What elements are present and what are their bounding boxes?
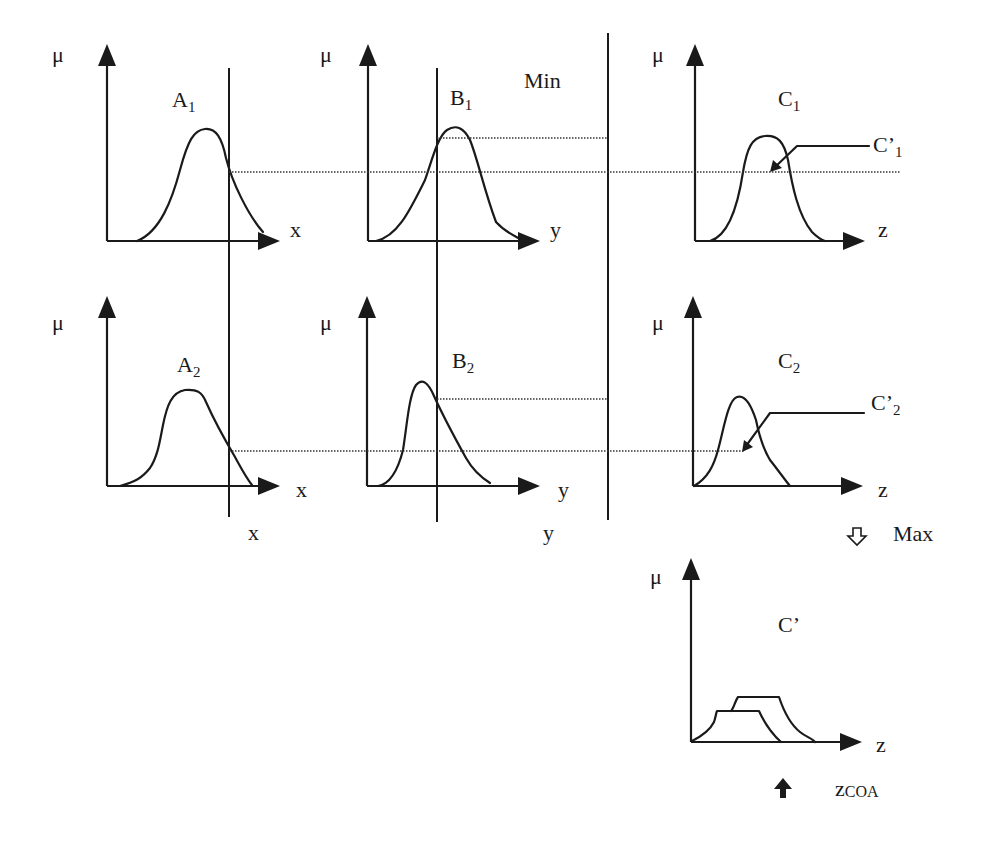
axis-label-x: x xyxy=(290,217,301,242)
panel-c2: μ z C2 C’2 xyxy=(652,296,901,502)
panel-c1: μ z C1 C’1 xyxy=(652,42,903,250)
up-arrow-icon xyxy=(774,778,792,798)
membership-curve-b2 xyxy=(378,382,490,486)
y-axis-arrow-icon xyxy=(98,44,116,66)
panel-aggregated-output: μ z C’ xyxy=(650,558,886,757)
y-axis-arrow-icon xyxy=(98,296,116,318)
mu-label: μ xyxy=(320,42,332,67)
y-axis-arrow-icon xyxy=(358,296,376,318)
clipped-label-c2: C’2 xyxy=(871,390,901,418)
y-axis-arrow-icon xyxy=(682,558,700,580)
min-operator-label: Min xyxy=(524,68,561,93)
y-axis-arrow-icon xyxy=(359,44,377,66)
mu-label: μ xyxy=(52,310,64,335)
z-coa-label: zCOA xyxy=(835,776,879,801)
mu-label: μ xyxy=(652,310,664,335)
axis-label-z: z xyxy=(876,732,886,757)
set-label-c1: C1 xyxy=(778,86,800,114)
clipped-curve-c2 xyxy=(692,711,781,742)
mu-label: μ xyxy=(52,42,64,67)
x-axis-arrow-icon xyxy=(518,232,540,250)
clipped-label-c1: C’1 xyxy=(873,132,903,160)
axis-label-y: y xyxy=(550,217,561,242)
set-label-c2: C2 xyxy=(778,348,800,376)
fuzzy-inference-diagram: μ x A1 μ y B1 μ z C1 C’1 μ xyxy=(0,0,994,848)
max-operator-label: Max xyxy=(893,521,933,546)
panel-a2: μ x A2 xyxy=(52,296,307,502)
crisp-input-x-label: x xyxy=(248,520,259,545)
x-axis-arrow-icon xyxy=(843,232,865,250)
axis-label-z: z xyxy=(878,477,888,502)
x-axis-arrow-icon xyxy=(840,733,862,751)
y-axis-arrow-icon xyxy=(686,44,704,66)
mu-label: μ xyxy=(320,310,332,335)
set-label-b2: B2 xyxy=(452,348,474,376)
leader-line-c2-clipped xyxy=(746,413,864,446)
set-label-c-prime: C’ xyxy=(778,612,800,637)
membership-curve-a1 xyxy=(137,129,263,241)
axis-label-z: z xyxy=(878,217,888,242)
leader-arrow-icon xyxy=(742,440,753,452)
membership-curve-b1 xyxy=(376,127,520,241)
membership-curve-a2 xyxy=(120,390,252,486)
set-label-a1: A1 xyxy=(172,87,195,115)
y-axis-arrow-icon xyxy=(684,296,702,318)
membership-curve-c2 xyxy=(694,397,790,486)
axis-label-y: y xyxy=(558,477,569,502)
x-axis-arrow-icon xyxy=(258,232,280,250)
panel-a1: μ x A1 xyxy=(52,42,301,250)
x-axis-arrow-icon xyxy=(518,477,540,495)
set-label-b1: B1 xyxy=(450,85,472,113)
x-axis-arrow-icon xyxy=(841,477,863,495)
hollow-down-arrow-icon xyxy=(848,528,866,545)
x-axis-arrow-icon xyxy=(258,477,280,495)
set-label-a2: A2 xyxy=(177,352,200,380)
axis-label-x: x xyxy=(296,477,307,502)
membership-curve-c1 xyxy=(710,136,825,241)
crisp-input-y-label: y xyxy=(543,520,554,545)
mu-label: μ xyxy=(650,564,662,589)
max-operator: Max xyxy=(848,521,933,546)
mu-label: μ xyxy=(652,42,664,67)
defuzzified-output: zCOA xyxy=(774,776,879,801)
